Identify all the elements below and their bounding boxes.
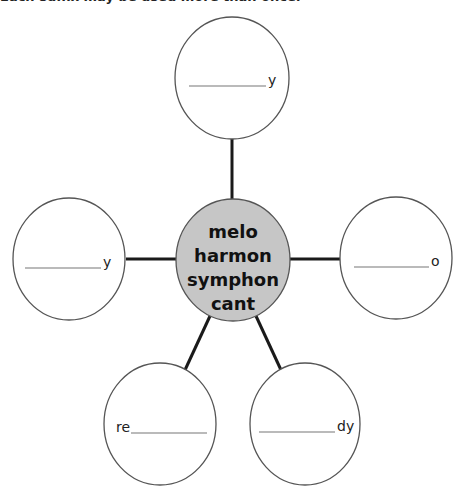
bubble-bottom-right: dy: [250, 363, 360, 485]
suffix-left: y: [103, 254, 111, 270]
bubble-bottom-left: re: [104, 363, 216, 485]
bubble-right: o: [340, 197, 452, 319]
root-word-4: cant: [211, 293, 256, 314]
connector-bottom-left: [185, 316, 210, 370]
prefix-bottom-left: re: [116, 419, 130, 435]
root-word-3: symphon: [187, 269, 279, 290]
connector-bottom-right: [256, 316, 281, 370]
bubble-center: melo harmon symphon cant: [176, 199, 290, 321]
root-word-1: melo: [208, 221, 258, 242]
suffix-top: y: [268, 72, 276, 88]
word-web-diagram: y y o re dy melo harmon symphon cant: [0, 0, 462, 502]
bubble-left: y: [13, 198, 125, 320]
root-word-2: harmon: [194, 245, 272, 266]
suffix-bottom-right: dy: [337, 418, 354, 434]
suffix-right: o: [431, 253, 440, 269]
bubble-top: y: [175, 17, 289, 139]
